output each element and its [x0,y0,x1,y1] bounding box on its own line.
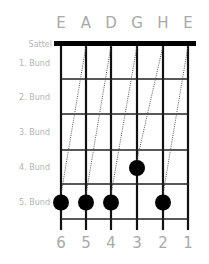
nut-label: Sattel [29,40,52,49]
string-number: 5 [81,234,91,252]
fret-label: 5. Bund [19,198,50,207]
tuning-guide-line [163,46,188,195]
fret-label: 3. Bund [19,128,50,137]
string-names: EADGHE [56,14,192,32]
string-number: 6 [56,234,66,252]
string-number: 3 [132,234,142,252]
string-name: G [131,14,143,32]
fret-label: 1. Bund [19,59,50,68]
guitar-tuning-diagram: EADGHE Sattel 1. Bund2. Bund3. Bund4. Bu… [0,0,209,264]
string-numbers: 654321 [56,234,193,252]
fret-label: 2. Bund [19,93,50,102]
string-number: 1 [183,234,193,252]
string-name: E [183,14,192,32]
string-name: E [56,14,65,32]
tuning-guide-line [61,46,86,195]
string-name: A [81,14,92,32]
string-name: D [105,14,117,32]
nut [54,41,196,46]
tuning-guide-line [137,46,163,160]
fret-label: 4. Bund [19,163,50,172]
tuning-guide-line [86,46,111,195]
string-number: 4 [106,234,116,252]
fret-labels: Sattel 1. Bund2. Bund3. Bund4. Bund5. Bu… [19,40,52,207]
finger-dot [53,195,69,211]
fretboard-grid [54,41,196,230]
tuning-guides [61,46,188,195]
finger-dot [78,195,94,211]
finger-dot [155,195,171,211]
string-name: H [157,14,168,32]
finger-dot [129,160,145,176]
string-number: 2 [158,234,168,252]
finger-dot [103,195,119,211]
